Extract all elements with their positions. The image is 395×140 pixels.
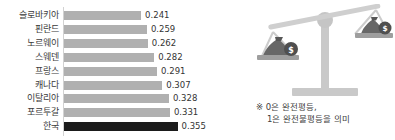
- bar-value-label: 0.241: [141, 9, 169, 22]
- balance-scale-panel: $ $ ※ 0은 완전평등, 1은 완전불평등을 의미: [250, 0, 395, 140]
- bar: [64, 81, 162, 90]
- balance-scale-icon: $ $: [256, 4, 395, 100]
- bar: [64, 25, 147, 34]
- bar-track: [64, 25, 147, 34]
- bar-track: [64, 81, 162, 90]
- bar-value-label: 0.307: [162, 79, 190, 92]
- bar-category-label: 캐나다: [0, 79, 59, 92]
- scale-left-arm: $: [257, 32, 299, 60]
- bar-value-label: 0.331: [170, 106, 198, 119]
- bar-highlight: [64, 122, 178, 131]
- scale-post: [321, 24, 329, 90]
- bar-value-label: 0.291: [157, 65, 185, 78]
- bar: [64, 39, 148, 48]
- bar-row: 포르투갈0.331: [0, 106, 250, 119]
- bar-row: 핀란드0.259: [0, 23, 250, 36]
- bar-category-label: 슬로바키아: [0, 9, 59, 22]
- bar-track: [64, 53, 154, 62]
- bar-track: [64, 108, 170, 117]
- note-line-1: ※ 0은 완전평등,: [256, 101, 395, 113]
- bar-track: [64, 67, 157, 76]
- bar-category-label: 이탈리아: [0, 92, 59, 105]
- bar-row: 프랑스0.291: [0, 65, 250, 78]
- scale-right-arm: $: [355, 10, 393, 38]
- bar-value-label: 0.355: [178, 120, 206, 133]
- bar-row: 스웨덴0.282: [0, 51, 250, 64]
- bar: [64, 94, 169, 103]
- bar-value-label: 0.328: [169, 92, 197, 105]
- infographic-root: 슬로바키아0.241핀란드0.259노르웨이0.262스웨덴0.282프랑스0.…: [0, 0, 395, 140]
- gini-bar-chart: 슬로바키아0.241핀란드0.259노르웨이0.262스웨덴0.282프랑스0.…: [0, 0, 250, 140]
- bar-value-label: 0.259: [147, 23, 175, 36]
- bar-category-label: 포르투갈: [0, 106, 59, 119]
- bar-row: 노르웨이0.262: [0, 37, 250, 50]
- bar: [64, 67, 157, 76]
- note-line-2: 1은 완전불평등을 의미: [256, 113, 395, 125]
- bar-row: 슬로바키아0.241: [0, 9, 250, 22]
- bar-category-label: 핀란드: [0, 23, 59, 36]
- bar-category-label: 노르웨이: [0, 37, 59, 50]
- scale-note: ※ 0은 완전평등, 1은 완전불평등을 의미: [256, 101, 395, 125]
- bar-category-label: 스웨덴: [0, 51, 59, 64]
- left-coin-symbol: $: [288, 46, 294, 55]
- bar: [64, 11, 141, 20]
- bar-category-label: 한국: [0, 120, 59, 133]
- bar: [64, 53, 154, 62]
- bar-track: [64, 122, 178, 131]
- bar-value-label: 0.262: [148, 37, 176, 50]
- bar-row: 이탈리아0.328: [0, 92, 250, 105]
- bar-value-label: 0.282: [154, 51, 182, 64]
- right-bag-tie: [371, 17, 378, 21]
- bar-row: 캐나다0.307: [0, 79, 250, 92]
- bar-track: [64, 94, 169, 103]
- bar-category-label: 프랑스: [0, 65, 59, 78]
- bar: [64, 108, 170, 117]
- bar-track: [64, 39, 148, 48]
- bar-track: [64, 11, 141, 20]
- bar-row: 한국0.355: [0, 120, 250, 133]
- right-coin-symbol: $: [382, 24, 387, 33]
